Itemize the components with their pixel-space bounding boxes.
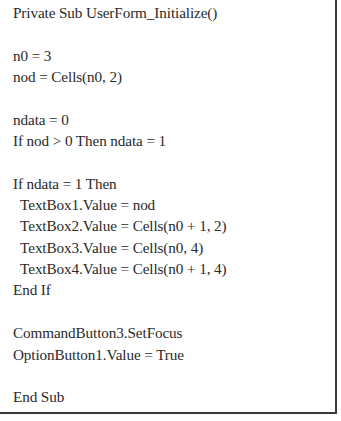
code-lines: Private Sub UserForm_Initialize() n0 = 3… [13, 2, 227, 408]
code-line-n0-assign: n0 = 3 [13, 45, 227, 66]
code-line-blank [13, 365, 227, 386]
code-line-end-if: End If [13, 279, 227, 300]
code-line-ndata-init: ndata = 0 [13, 109, 227, 130]
code-line-blank [13, 151, 227, 172]
code-line-nod-assign: nod = Cells(n0, 2) [13, 66, 227, 87]
code-line-optionbutton: OptionButton1.Value = True [13, 344, 227, 365]
code-line-if-ndata: If ndata = 1 Then [13, 173, 227, 194]
code-line-textbox2: TextBox2.Value = Cells(n0 + 1, 2) [13, 215, 227, 236]
code-line-blank [13, 23, 227, 44]
code-line-end-sub: End Sub [13, 386, 227, 407]
code-line-setfocus: CommandButton3.SetFocus [13, 322, 227, 343]
code-line-textbox1: TextBox1.Value = nod [13, 194, 227, 215]
code-line-blank [13, 301, 227, 322]
code-line-textbox3: TextBox3.Value = Cells(n0, 4) [13, 237, 227, 258]
code-line-textbox4: TextBox4.Value = Cells(n0 + 1, 4) [13, 258, 227, 279]
code-line-sub-declaration: Private Sub UserForm_Initialize() [13, 2, 227, 23]
code-listing-box: Private Sub UserForm_Initialize() n0 = 3… [0, 0, 337, 414]
code-line-if-nod: If nod > 0 Then ndata = 1 [13, 130, 227, 151]
code-line-blank [13, 87, 227, 108]
